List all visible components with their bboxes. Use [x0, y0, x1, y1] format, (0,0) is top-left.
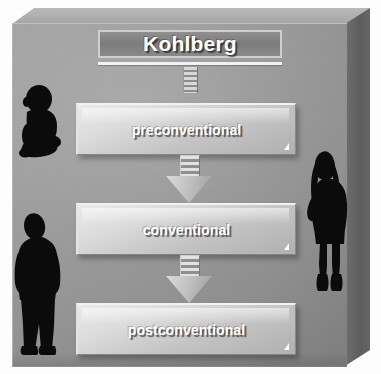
title-connector-stub [183, 67, 198, 93]
stage-box-preconventional: preconventional [76, 103, 296, 155]
stage-label-postconventional: postconventional [128, 322, 246, 338]
corner-highlight-icon [284, 343, 289, 350]
panel-top-bevel [12, 8, 370, 24]
baby-silhouette-icon [14, 84, 70, 160]
corner-highlight-icon [284, 243, 289, 250]
stage-box-postconventional: postconventional [76, 303, 296, 355]
stage-box-conventional: conventional [76, 203, 296, 255]
stage-label-conventional: conventional [143, 222, 231, 238]
arrow-head [166, 276, 212, 303]
corner-highlight-icon [284, 143, 289, 150]
woman-silhouette-icon [300, 148, 362, 294]
man-silhouette-icon [10, 208, 68, 356]
arrow-head [166, 176, 212, 203]
arrow-shaft [180, 255, 200, 278]
arrow-down-icon-1 [166, 155, 212, 203]
diagram-title-bar: Kohlberg [98, 30, 282, 58]
stage-label-preconventional: preconventional [132, 122, 242, 138]
arrow-shaft [180, 155, 200, 178]
kohlberg-diagram: Kohlberg preconventional conventional po… [0, 0, 381, 374]
diagram-title: Kohlberg [143, 32, 237, 56]
title-underline [98, 62, 282, 65]
arrow-down-icon-2 [166, 255, 212, 303]
